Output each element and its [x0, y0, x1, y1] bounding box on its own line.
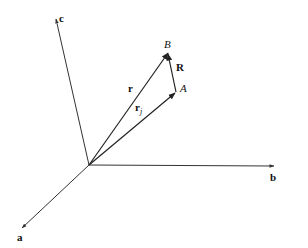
axis-c-label: c	[59, 12, 64, 24]
point-B-label: B	[164, 38, 171, 50]
vector-r-label: r	[128, 82, 133, 94]
point-A-label: A	[179, 82, 187, 94]
svg-text:j: j	[139, 107, 143, 116]
vector-R	[168, 54, 176, 92]
axis-b-label: b	[270, 171, 276, 183]
axis-b	[89, 165, 274, 166]
vector-R-label: R	[176, 61, 185, 73]
axis-a-label: a	[17, 231, 23, 243]
axis-c	[56, 19, 89, 165]
vector-diagram: c a b B A r r j R	[0, 0, 308, 248]
vector-rj-label: r j	[135, 101, 143, 116]
axis-a	[22, 165, 89, 228]
